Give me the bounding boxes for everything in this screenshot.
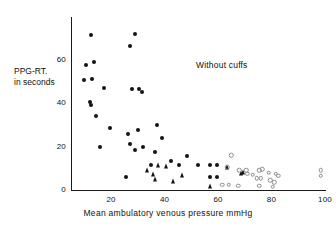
data-point-filled-circle xyxy=(128,44,132,48)
data-point-open-circle xyxy=(267,170,272,175)
data-point-filled-circle xyxy=(169,159,173,163)
data-point-filled-circle xyxy=(208,175,212,179)
data-point-filled-circle xyxy=(94,114,98,118)
data-point-filled-circle xyxy=(208,163,212,167)
data-point-filled-circle xyxy=(140,90,144,94)
data-point-filled-circle xyxy=(215,163,219,167)
data-point-filled-circle xyxy=(90,77,94,81)
x-tick-label: 100 xyxy=(313,195,336,204)
data-point-open-circle xyxy=(319,174,324,179)
data-point-filled-circle xyxy=(136,128,140,132)
y-tick-label: 0 xyxy=(44,185,66,194)
data-point-filled-circle xyxy=(160,136,164,140)
data-point-filled-circle xyxy=(130,87,134,91)
data-point-open-circle xyxy=(225,165,230,170)
data-point-triangle xyxy=(145,168,149,173)
data-point-open-circle xyxy=(260,167,265,172)
data-point-filled-circle xyxy=(153,150,157,154)
data-point-open-circle xyxy=(319,168,324,173)
x-tick-label: 40 xyxy=(153,195,177,204)
data-point-filled-circle xyxy=(177,163,181,167)
x-tick-label: 60 xyxy=(206,195,230,204)
data-point-filled-circle xyxy=(84,63,88,67)
data-point-filled-circle xyxy=(155,123,159,127)
scatter-plot-figure: PPG-RT. in seconds Mean ambulatory venou… xyxy=(0,0,336,234)
data-point-filled-circle xyxy=(128,142,132,146)
data-point-triangle xyxy=(151,171,155,176)
data-point-filled-circle xyxy=(141,145,145,149)
data-point-filled-circle xyxy=(108,126,112,130)
y-tick-label: 20 xyxy=(44,142,66,151)
y-tick-label: 60 xyxy=(44,55,66,64)
data-point-filled-circle xyxy=(98,145,102,149)
data-point-filled-circle xyxy=(124,175,128,179)
data-point-open-circle xyxy=(229,153,234,158)
data-point-filled-circle xyxy=(149,163,153,167)
data-point-triangle xyxy=(208,183,212,188)
data-point-open-circle xyxy=(276,174,281,179)
data-point-triangle xyxy=(171,179,175,184)
data-point-open-circle xyxy=(236,183,241,188)
data-point-filled-circle xyxy=(92,60,96,64)
data-point-open-circle xyxy=(237,168,242,173)
data-point-open-circle xyxy=(271,184,276,189)
data-point-open-circle xyxy=(220,182,225,187)
data-point-filled-circle xyxy=(89,103,93,107)
data-point-filled-circle xyxy=(126,132,130,136)
data-point-filled-circle xyxy=(133,148,137,152)
x-tick-label: 80 xyxy=(260,195,284,204)
data-point-filled-circle xyxy=(215,175,219,179)
data-point-triangle xyxy=(153,177,157,182)
data-point-open-circle xyxy=(257,183,262,188)
x-tick-label: 20 xyxy=(99,195,123,204)
data-point-triangle xyxy=(156,163,160,168)
data-point-filled-circle xyxy=(102,86,106,90)
plot-area: 020406020406080100 xyxy=(0,0,336,234)
data-point-filled-circle xyxy=(89,33,93,37)
data-point-filled-circle xyxy=(133,32,137,36)
data-point-triangle xyxy=(180,172,184,177)
data-point-triangle xyxy=(164,164,168,169)
data-point-filled-circle xyxy=(82,78,86,82)
data-point-filled-circle xyxy=(185,154,189,158)
data-point-filled-circle xyxy=(196,163,200,167)
data-point-open-circle xyxy=(245,171,250,176)
data-point-open-circle xyxy=(226,182,231,187)
y-tick-label: 40 xyxy=(44,98,66,107)
data-point-open-circle xyxy=(259,176,264,181)
